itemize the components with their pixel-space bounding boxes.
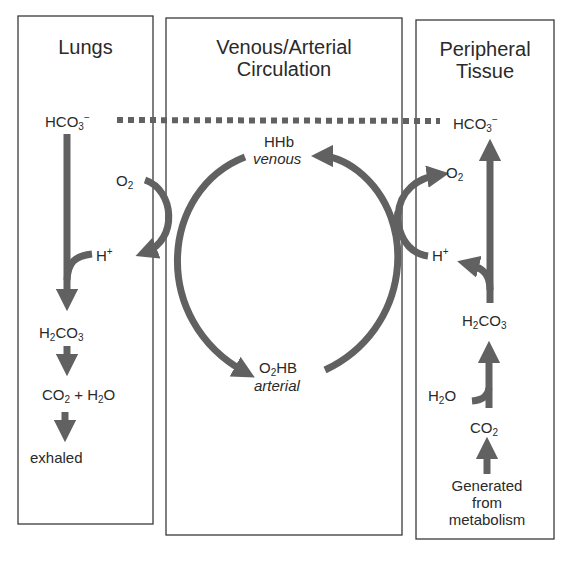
label-text: H bbox=[428, 387, 439, 404]
lungs-oxygen-label: O2 bbox=[116, 173, 133, 188]
label-text: CO bbox=[42, 386, 65, 403]
arterial-state-label: arterial bbox=[254, 378, 300, 393]
label-text: HCO bbox=[453, 115, 486, 132]
tissue-water-join bbox=[472, 388, 489, 401]
lungs-proton-label: H+ bbox=[96, 248, 113, 263]
label-text: O bbox=[446, 164, 458, 181]
arterial-flow-arrow bbox=[177, 157, 245, 372]
label-text: O bbox=[104, 386, 116, 403]
label-text: H bbox=[96, 247, 107, 264]
label-text: + H bbox=[70, 386, 98, 403]
label-sub: 3 bbox=[78, 332, 84, 343]
circulation-panel bbox=[166, 18, 402, 535]
tissue-title-line1: Peripheral bbox=[416, 38, 554, 60]
label-sup: − bbox=[492, 114, 498, 125]
venous-state-label: venous bbox=[253, 151, 301, 166]
lungs-proton-join bbox=[67, 254, 92, 280]
label-sub: 2 bbox=[493, 427, 499, 438]
venous-species-label: HHb bbox=[264, 134, 294, 149]
circulation-title-line2: Circulation bbox=[166, 58, 402, 80]
bicarbonate-exchange-dotted-line bbox=[117, 120, 440, 121]
label-line: from bbox=[436, 494, 538, 511]
label-sub: 2 bbox=[128, 180, 134, 191]
lungs-title: Lungs bbox=[18, 36, 153, 58]
label-text: O bbox=[444, 387, 456, 404]
label-text: CO bbox=[478, 312, 501, 329]
label-sup: − bbox=[84, 112, 90, 123]
label-text: O bbox=[259, 359, 271, 376]
tissue-water-label: H2O bbox=[428, 388, 456, 403]
lungs-products-label: CO2 + H2O bbox=[42, 387, 115, 402]
lungs-carbonic-acid-label: H2CO3 bbox=[39, 325, 83, 340]
lungs-exhaled-label: exhaled bbox=[30, 450, 83, 465]
label-sup: + bbox=[107, 246, 113, 257]
label-sub: 2 bbox=[458, 172, 464, 183]
label-text: CO bbox=[470, 419, 493, 436]
circulation-title-line1: Venous/Arterial bbox=[166, 36, 402, 58]
label-text: H bbox=[432, 247, 443, 264]
arterial-species-label: O2HB bbox=[259, 360, 297, 375]
venous-return-arrow bbox=[322, 156, 398, 370]
tissue-title-line2: Tissue bbox=[416, 60, 554, 82]
label-line: metabolism bbox=[436, 511, 538, 528]
label-sup: + bbox=[443, 246, 449, 257]
tissue-carbonic-acid-label: H2CO3 bbox=[462, 313, 506, 328]
tissue-title: Peripheral Tissue bbox=[416, 38, 554, 82]
tissue-co2-label: CO2 bbox=[470, 420, 498, 435]
lungs-bicarbonate-label: HCO3− bbox=[45, 114, 90, 129]
label-text: HCO bbox=[45, 113, 78, 130]
label-text: O bbox=[116, 172, 128, 189]
lungs-panel bbox=[18, 16, 153, 524]
label-text: H bbox=[39, 324, 50, 341]
label-sub: 3 bbox=[501, 320, 507, 331]
label-text: H bbox=[462, 312, 473, 329]
circulation-title: Venous/Arterial Circulation bbox=[166, 36, 402, 80]
label-text: CO bbox=[55, 324, 78, 341]
tissue-oxygen-label: O2 bbox=[446, 165, 463, 180]
label-text: HB bbox=[276, 359, 297, 376]
tissue-metabolism-label: Generated from metabolism bbox=[436, 477, 538, 528]
lungs-o2-uptake-arrow bbox=[145, 180, 169, 252]
tissue-proton-label: H+ bbox=[432, 248, 449, 263]
tissue-o2-release-arrow bbox=[398, 175, 438, 215]
label-line: Generated bbox=[436, 477, 538, 494]
tissue-bicarbonate-label: HCO3− bbox=[453, 116, 498, 131]
